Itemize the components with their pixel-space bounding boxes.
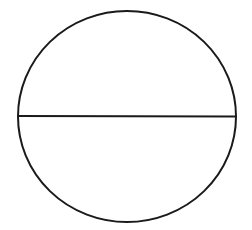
diagram-canvas <box>0 0 252 230</box>
horizontal-diameter-line <box>18 116 236 117</box>
